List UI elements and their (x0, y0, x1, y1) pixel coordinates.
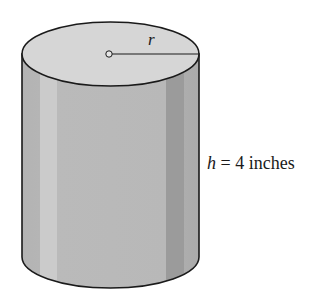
height-label: h = 4 inches (207, 153, 295, 173)
radius-label: r (148, 30, 155, 49)
cylinder-diagram: r h = 4 inches (0, 0, 331, 303)
height-value: 4 inches (235, 153, 294, 173)
height-variable: h (207, 153, 216, 173)
height-equals: = (216, 153, 235, 173)
center-point (106, 51, 112, 57)
cylinder-side (22, 54, 199, 288)
